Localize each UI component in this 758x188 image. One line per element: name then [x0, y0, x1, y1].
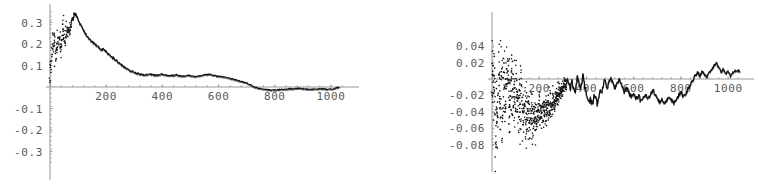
x-tick-label: 200 — [95, 90, 117, 103]
data-point — [491, 92, 493, 94]
data-point — [557, 104, 559, 106]
data-point — [519, 128, 521, 130]
data-point — [525, 147, 527, 149]
data-point — [55, 59, 57, 61]
data-point — [504, 86, 506, 88]
data-point — [532, 134, 534, 136]
data-point — [530, 118, 532, 120]
data-point — [540, 108, 542, 110]
data-point — [554, 108, 556, 110]
data-point — [552, 93, 554, 95]
data-point — [525, 133, 527, 135]
data-point — [71, 20, 73, 22]
y-tick-label: -0.06 — [449, 122, 485, 135]
data-point — [498, 61, 500, 63]
data-point — [59, 31, 61, 33]
data-point — [493, 91, 495, 93]
data-series-group — [49, 12, 340, 91]
data-point — [64, 33, 66, 35]
data-point — [562, 90, 564, 92]
data-point — [511, 54, 513, 56]
data-point — [492, 50, 494, 52]
data-point — [523, 121, 525, 123]
data-point — [521, 86, 523, 88]
y-tick-label: -0.02 — [449, 89, 485, 102]
data-point — [511, 58, 513, 60]
data-point — [51, 56, 53, 58]
data-point — [541, 112, 543, 114]
data-point — [496, 113, 498, 115]
data-point — [492, 75, 494, 77]
data-point — [500, 107, 502, 109]
data-point — [499, 103, 501, 105]
data-point — [534, 111, 536, 113]
data-point — [526, 131, 528, 133]
data-point — [497, 95, 499, 97]
data-point — [503, 89, 505, 91]
data-point — [494, 56, 496, 58]
data-point — [558, 81, 560, 83]
data-point — [491, 62, 493, 64]
data-point — [512, 88, 514, 90]
data-point — [532, 118, 534, 120]
data-point — [525, 136, 527, 138]
data-point — [529, 123, 531, 125]
data-point — [515, 111, 517, 113]
data-point — [525, 138, 527, 140]
data-point — [554, 106, 556, 108]
data-point — [500, 98, 502, 100]
data-point — [500, 75, 502, 77]
data-point — [73, 17, 75, 19]
data-point — [54, 36, 56, 38]
data-point — [519, 143, 521, 145]
data-point — [565, 87, 567, 89]
data-point — [519, 111, 521, 113]
data-point — [59, 37, 61, 39]
data-point — [540, 110, 542, 112]
data-point — [512, 107, 514, 109]
data-point — [546, 115, 548, 117]
data-point — [532, 132, 534, 134]
data-point — [517, 111, 519, 113]
data-point — [553, 104, 555, 106]
data-point — [545, 99, 547, 101]
data-point — [523, 94, 525, 96]
data-point — [516, 100, 518, 102]
data-point — [532, 122, 534, 124]
data-point — [514, 104, 516, 106]
data-point — [62, 29, 64, 31]
data-point — [544, 111, 546, 113]
data-point — [543, 127, 545, 129]
data-point — [495, 144, 497, 146]
data-point — [535, 107, 537, 109]
data-point — [553, 96, 555, 98]
data-point — [515, 73, 517, 75]
data-point — [537, 121, 539, 123]
data-point — [559, 87, 561, 89]
data-point — [517, 105, 519, 107]
data-point — [548, 119, 550, 121]
data-point — [553, 99, 555, 101]
data-point — [496, 108, 498, 110]
data-point — [505, 108, 507, 110]
data-point — [61, 45, 63, 47]
data-point — [521, 108, 523, 110]
data-point — [520, 69, 522, 71]
data-point — [509, 104, 511, 106]
data-point — [503, 111, 505, 113]
data-point — [525, 122, 527, 124]
data-point — [50, 69, 52, 71]
data-point — [517, 122, 519, 124]
data-point — [493, 93, 495, 95]
data-point — [69, 22, 71, 24]
right-chart-svg: 20040060080010000.040.02-0.02-0.04-0.06-… — [380, 0, 758, 188]
data-point — [537, 108, 539, 110]
data-point — [529, 137, 531, 139]
data-point — [555, 103, 557, 105]
data-point — [564, 79, 566, 81]
data-point — [56, 29, 58, 31]
data-point — [50, 67, 52, 69]
data-point — [510, 110, 512, 112]
data-point — [546, 109, 548, 111]
data-point — [61, 39, 63, 41]
